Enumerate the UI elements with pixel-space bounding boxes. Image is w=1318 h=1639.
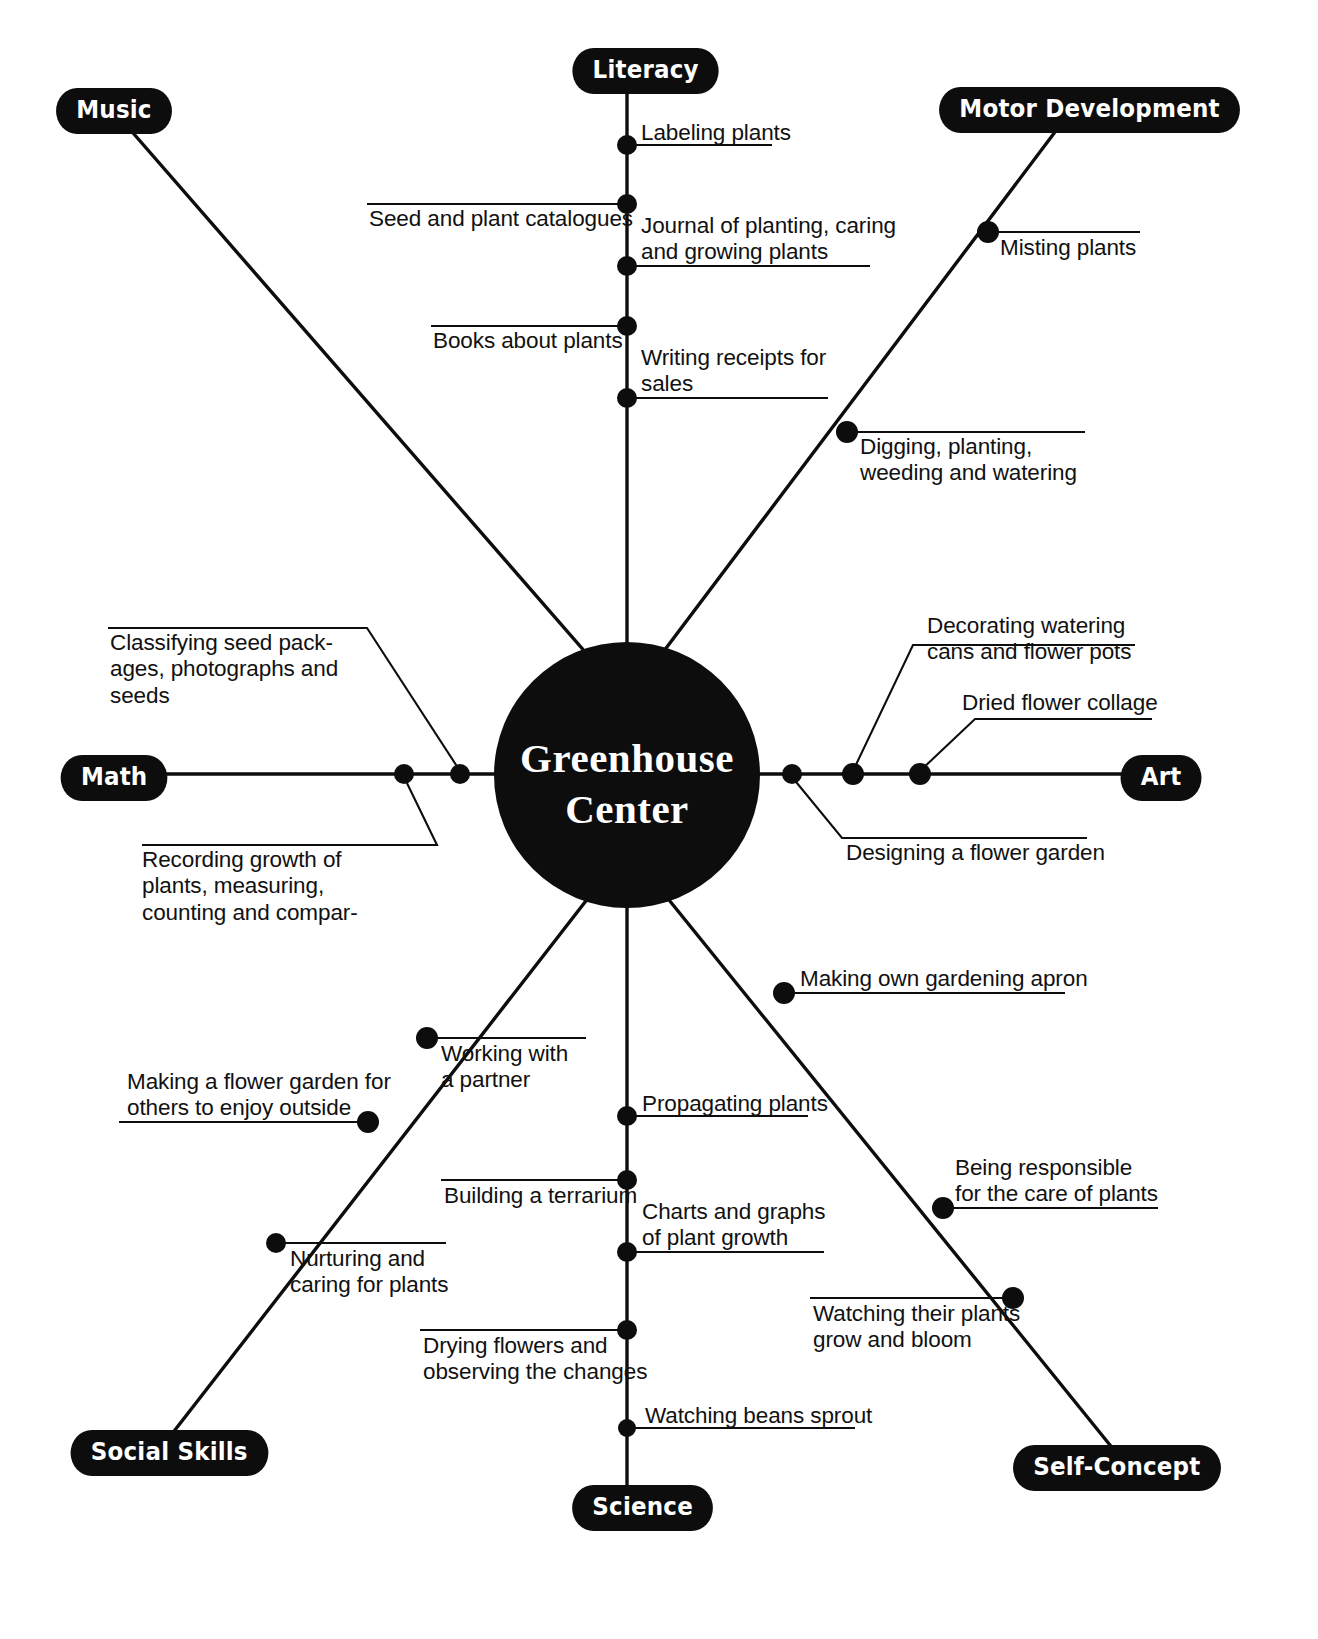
category-pill-motor[interactable]: Motor Development xyxy=(939,87,1240,133)
topic-social-1: Making a flower garden for others to enj… xyxy=(127,1069,391,1122)
leader-math-1 xyxy=(142,777,437,845)
topic-motor-0: Misting plants xyxy=(1000,235,1136,261)
category-pill-science[interactable]: Science xyxy=(572,1485,713,1531)
node-dot-literacy-2[interactable] xyxy=(617,256,637,276)
topic-literacy-3: Books about plants xyxy=(433,328,623,354)
node-dot-art-0[interactable] xyxy=(782,764,802,784)
mind-map-canvas: Greenhouse Center Literacy Mu xyxy=(0,0,1318,1639)
node-dot-social-0[interactable] xyxy=(416,1027,438,1049)
center-hub-label-line1: Greenhouse xyxy=(520,735,734,781)
node-dot-self-1[interactable] xyxy=(932,1197,954,1219)
topic-science-4: Watching beans sprout xyxy=(645,1403,872,1429)
node-dot-literacy-0[interactable] xyxy=(617,135,637,155)
topic-literacy-1: Seed and plant catalogues xyxy=(369,206,633,232)
topic-science-2: Charts and graphs of plant growth xyxy=(642,1199,825,1252)
node-dot-math-1[interactable] xyxy=(394,764,414,784)
node-dot-motor-1[interactable] xyxy=(836,421,858,443)
topic-self-2: Watching their plants grow and bloom xyxy=(813,1301,1020,1354)
category-pill-literacy[interactable]: Literacy xyxy=(572,48,719,94)
topic-literacy-0: Labeling plants xyxy=(641,120,791,146)
topic-literacy-4: Writing receipts for sales xyxy=(641,345,826,398)
topic-math-1: Recording growth of plants, measuring, c… xyxy=(142,847,358,926)
node-dot-math-0[interactable] xyxy=(450,764,470,784)
topic-science-1: Building a terrarium xyxy=(444,1183,637,1209)
category-pill-music[interactable]: Music xyxy=(56,88,172,134)
category-pill-art[interactable]: Art xyxy=(1121,755,1202,801)
topic-motor-1: Digging, planting, weeding and watering xyxy=(860,434,1077,487)
leader-art-2 xyxy=(792,777,1087,838)
leader-art-1 xyxy=(920,719,1152,771)
node-dot-art-2[interactable] xyxy=(909,763,931,785)
topic-math-0: Classifying seed pack- ages, photographs… xyxy=(110,630,338,709)
topic-self-0: Making own gardening apron xyxy=(800,966,1088,992)
category-pill-math[interactable]: Math xyxy=(61,755,168,801)
category-pill-self[interactable]: Self-Concept xyxy=(1013,1445,1221,1491)
node-dot-motor-0[interactable] xyxy=(977,221,999,243)
node-dot-art-1[interactable] xyxy=(842,763,864,785)
topic-social-0: Working with a partner xyxy=(441,1041,568,1094)
node-dot-science-0[interactable] xyxy=(617,1106,637,1126)
topic-art-2: Designing a flower garden xyxy=(846,840,1105,866)
center-hub-label-line2: Center xyxy=(565,786,689,832)
node-dot-literacy-4[interactable] xyxy=(617,388,637,408)
topic-art-0: Decorating watering cans and flower pots xyxy=(927,613,1131,666)
topic-self-1: Being responsible for the care of plants xyxy=(955,1155,1158,1208)
topic-social-2: Nurturing and caring for plants xyxy=(290,1246,448,1299)
node-dot-science-2[interactable] xyxy=(617,1242,637,1262)
node-dot-social-2[interactable] xyxy=(266,1233,286,1253)
category-pill-social[interactable]: Social Skills xyxy=(71,1430,268,1476)
topic-science-3: Drying flowers and observing the changes xyxy=(423,1333,647,1386)
node-dot-science-4[interactable] xyxy=(618,1419,636,1437)
topic-science-0: Propagating plants xyxy=(642,1091,828,1117)
topic-art-1: Dried flower collage xyxy=(962,690,1158,716)
topic-literacy-2: Journal of planting, caring and growing … xyxy=(641,213,896,266)
branch-line-self xyxy=(627,848,1114,1450)
node-dot-self-0[interactable] xyxy=(773,982,795,1004)
